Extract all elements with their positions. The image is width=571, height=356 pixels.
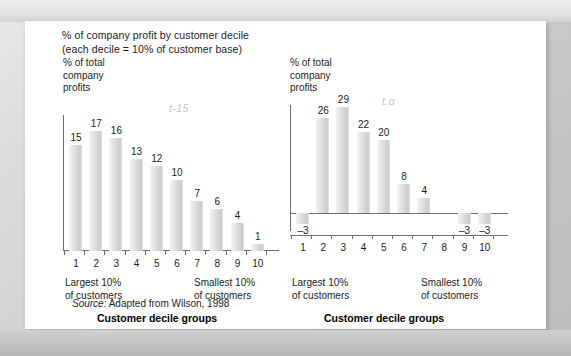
smallest-line1: Smallest 10%: [421, 277, 482, 290]
bar: [377, 140, 390, 213]
bar-value-label: 8: [394, 171, 414, 182]
axis-tick: [352, 235, 353, 239]
bar-group: 22: [354, 105, 374, 231]
bar: [69, 145, 82, 251]
bar-value-label: 4: [228, 210, 248, 221]
x-axis-label: 8: [434, 242, 454, 253]
bar-group: 10: [167, 115, 187, 251]
bar-value-label: 12: [147, 153, 167, 164]
x-axis-label: 2: [313, 242, 333, 253]
axis-tick: [266, 251, 267, 255]
bar-group: 4: [414, 105, 434, 231]
bar-group: 16: [106, 115, 126, 251]
chart-left-plot-area: 1517161312107641: [63, 115, 279, 251]
y-title-line1: % of total: [63, 57, 105, 70]
x-axis-label: 5: [147, 258, 167, 269]
chart-right-x-axis-line: [290, 235, 508, 236]
bar-value-label: 13: [127, 146, 147, 157]
bar-group: 29: [333, 105, 353, 231]
bar: [417, 198, 430, 213]
bar-group: 7: [187, 115, 207, 251]
bar-value-label: 15: [66, 132, 86, 143]
x-axis-label: 3: [333, 242, 353, 253]
source-note: Source: Adapted from Wilson, 1998: [72, 298, 229, 309]
bar-group: 12: [147, 115, 167, 251]
bar: [316, 118, 329, 213]
bar: [296, 213, 309, 224]
axis-tick: [185, 251, 186, 255]
chart-right-y-axis-title: % of total company profits: [290, 57, 332, 95]
bar: [251, 244, 264, 251]
bar-value-label: 17: [86, 118, 106, 129]
axis-tick: [291, 235, 292, 239]
bar-value-label: 29: [333, 94, 353, 105]
bar-value-label: 4: [414, 185, 434, 196]
axis-tick: [205, 251, 206, 255]
bar-value-label: 7: [187, 188, 207, 199]
x-axis-label: 4: [127, 258, 147, 269]
largest-line1: Largest 10%: [292, 277, 349, 290]
bar-group: 6: [207, 115, 227, 251]
axis-tick: [432, 235, 433, 239]
bar-value-label: 1: [248, 231, 268, 242]
axis-tick: [84, 251, 85, 255]
bar-group: 1: [248, 115, 268, 251]
bar-group: –3: [293, 105, 313, 231]
x-axis-label: 9: [455, 242, 475, 253]
y-title-line1: % of total: [290, 57, 332, 70]
y-title-line2: company: [63, 70, 105, 83]
bar: [109, 138, 122, 251]
axis-tick: [493, 235, 494, 239]
chart-right-largest-note: Largest 10% of customers: [292, 277, 349, 302]
figure-card: % of company profit by customer decile (…: [25, 21, 546, 329]
x-axis-label: 10: [248, 258, 268, 269]
y-title-line2: company: [290, 70, 332, 83]
source-text: Adapted from Wilson, 1998: [109, 298, 230, 309]
chart-left-y-axis-title: % of total company profits: [63, 57, 105, 95]
bar-value-label: 22: [354, 119, 374, 130]
x-axis-label: 6: [167, 258, 187, 269]
bar-group: 20: [374, 105, 394, 231]
x-axis-label: 2: [86, 258, 106, 269]
axis-tick: [473, 235, 474, 239]
bar: [478, 213, 491, 224]
bar-group: 13: [127, 115, 147, 251]
axis-tick: [311, 235, 312, 239]
bar: [150, 166, 163, 251]
x-axis-label: 3: [106, 258, 126, 269]
bar-group: 15: [66, 115, 86, 251]
axis-tick: [372, 235, 373, 239]
largest-line1: Largest 10%: [65, 277, 122, 290]
bar: [170, 180, 183, 251]
largest-line2: of customers: [292, 290, 349, 303]
chart-left-watermark: t-15: [169, 102, 189, 114]
bar: [397, 184, 410, 213]
bar: [89, 131, 102, 251]
bar-group: 26: [313, 105, 333, 231]
chart-right-bars: –32629222084–3–3: [291, 105, 508, 231]
x-axis-label: 6: [394, 242, 414, 253]
x-axis-label: 1: [293, 242, 313, 253]
x-axis-label: 8: [207, 258, 227, 269]
chart-right-caption: Customer decile groups: [324, 312, 444, 324]
chart-right-plot-area: –32629222084–3–3: [290, 105, 508, 231]
source-label: Source:: [72, 298, 106, 309]
axis-tick: [145, 251, 146, 255]
x-axis-label: 7: [414, 242, 434, 253]
bar: [357, 132, 370, 212]
bar: [190, 201, 203, 251]
bar: [210, 209, 223, 252]
x-axis-label: 9: [228, 258, 248, 269]
bar: [458, 213, 471, 224]
bar: [130, 159, 143, 251]
axis-tick: [226, 251, 227, 255]
axis-tick: [125, 251, 126, 255]
axis-tick: [412, 235, 413, 239]
chart-left-bars: 1517161312107641: [64, 115, 279, 251]
bar: [231, 223, 244, 251]
axis-tick: [64, 251, 65, 255]
bar-value-label: 26: [313, 105, 333, 116]
x-axis-label: 7: [187, 258, 207, 269]
bar-value-label: 10: [167, 167, 187, 178]
bar-value-label: 6: [207, 196, 227, 207]
